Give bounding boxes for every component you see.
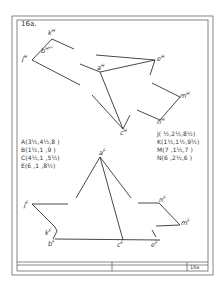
label-j-f: jF [24, 201, 28, 209]
label-m-f: mF [181, 219, 190, 227]
label-k-f: kF [45, 229, 51, 237]
label-e-h: eH [157, 55, 164, 63]
horizontal-view [32, 39, 180, 129]
label-b-f: bF [48, 240, 55, 248]
coord-c: C(4½,1 ,5½) [21, 154, 60, 162]
label-k-h: kH [48, 29, 55, 37]
label-j-h: jH [22, 55, 27, 63]
point-coords-right: J( ½,2½,8½) K(1½,1½,9½) M(7 ,1½,7 ) N(6 … [157, 130, 199, 162]
title-block-id: 16a [190, 264, 199, 270]
label-m-h: mH [180, 92, 190, 100]
coord-a: A(3½,4½,8 ) [21, 138, 60, 146]
sheet-title: 16a. [21, 20, 36, 28]
coord-n: N(6 ,2½,6 ) [157, 154, 199, 162]
point-coords-left: A(3½,4½,8 ) B(1½,1 ,9 ) C(4½,1 ,5½) E(6 … [21, 138, 60, 170]
label-n-f: nF [159, 196, 166, 204]
coord-j: J( ½,2½,8½) [157, 130, 199, 138]
label-n-h: nH [157, 118, 165, 126]
title-block [17, 262, 208, 271]
label-a-h: aH [97, 64, 104, 72]
label-a-f: aF [99, 149, 106, 157]
coord-m: M(7 ,1½,7 ) [157, 146, 199, 154]
coord-k: K(1½,1½,9½) [157, 138, 199, 146]
label-c-f: cF [117, 241, 123, 249]
coord-e: E(6 ,1 ,8½) [21, 162, 60, 170]
coord-b: B(1½,1 ,9 ) [21, 146, 60, 154]
label-e-f: eF [151, 241, 158, 249]
label-b-h: bHᴴᴾ [41, 47, 52, 55]
label-c-h: cH [120, 129, 127, 137]
drawing-sheet: 16a. kH jH bHᴴᴾ aH eH cH nH mH A(3½,4½,8… [0, 0, 224, 290]
